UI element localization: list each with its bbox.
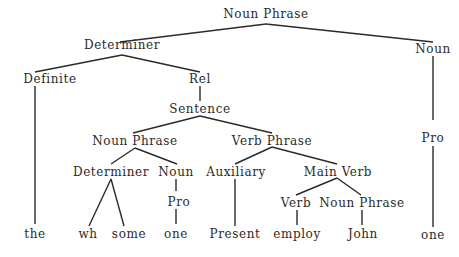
syntax-tree-diagram: Noun Phrase Determiner Noun Definite Rel…: [0, 0, 459, 257]
node-definite: Definite: [23, 72, 76, 86]
node-verb-phrase: Verb Phrase: [232, 134, 312, 148]
node-pro-right: Pro: [422, 131, 445, 145]
leaf-one-right: one: [421, 228, 445, 242]
edge-vp-aux: [235, 147, 272, 164]
node-inner-pro: Pro: [168, 195, 191, 209]
leaf-one-inner: one: [164, 227, 188, 241]
edge-np_inner-det_inner: [111, 148, 135, 164]
edge-det_inner-some: [111, 179, 124, 226]
node-inner-noun: Noun: [158, 165, 194, 179]
edge-main_verb-verb: [296, 178, 337, 195]
node-noun-right: Noun: [415, 42, 451, 56]
edge-det-definite: [35, 55, 122, 72]
tree-edges: [0, 0, 459, 257]
edge-sentence-vp: [200, 116, 272, 133]
edge-sentence-np_inner: [133, 116, 200, 133]
leaf-john: John: [348, 227, 378, 241]
node-verb: Verb: [281, 196, 311, 210]
node-sentence: Sentence: [169, 102, 230, 116]
leaf-some: some: [112, 227, 146, 241]
node-auxiliary: Auxiliary: [206, 165, 266, 179]
node-main-verb: Main Verb: [304, 165, 372, 179]
leaf-employ: employ: [273, 227, 321, 241]
leaf-the: the: [24, 227, 45, 241]
node-object-noun-phrase: Noun Phrase: [319, 196, 405, 210]
node-root-noun-phrase: Noun Phrase: [223, 7, 309, 21]
node-inner-noun-phrase: Noun Phrase: [92, 134, 178, 148]
leaf-present: Present: [210, 227, 261, 241]
node-determiner: Determiner: [84, 38, 160, 52]
node-inner-determiner: Determiner: [73, 165, 149, 179]
edge-det_inner-wh: [89, 179, 111, 226]
node-rel: Rel: [189, 72, 211, 86]
leaf-wh: wh: [78, 227, 97, 241]
edge-vp-main_verb: [272, 147, 337, 164]
edge-np_inner-noun_inner: [135, 148, 177, 164]
edge-main_verb-np_mv: [337, 178, 361, 195]
edge-root_np-noun_r: [266, 24, 433, 42]
edge-det-rel: [122, 55, 200, 72]
